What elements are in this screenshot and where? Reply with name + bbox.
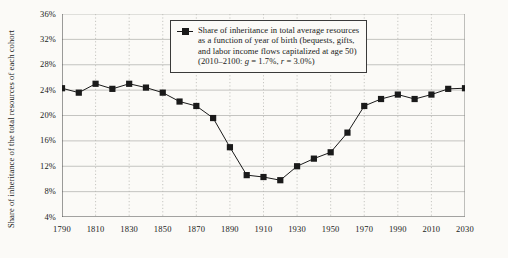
legend-line-4: (2010–2100: g = 1.7%, r = 3.0%) (198, 56, 315, 66)
y-tick-label: 4% (16, 213, 56, 222)
y-tick-label: 8% (16, 187, 56, 196)
y-tick-label: 12% (16, 162, 56, 171)
y-tick-label: 20% (16, 111, 56, 120)
y-tick-label: 16% (16, 136, 56, 145)
chart-figure: Share of inheritance of the total resour… (0, 0, 508, 258)
y-axis-title-text: Share of inheritance of the total resour… (6, 30, 16, 228)
y-tick-label: 36% (16, 10, 56, 19)
y-tick-label: 24% (16, 86, 56, 95)
legend-line-3: and labor income flows capitalized at ag… (198, 46, 357, 56)
legend-growth-suffix: = 3.0%) (284, 56, 314, 66)
chart-legend: Share of inheritance in total average re… (170, 20, 367, 73)
legend-growth-mid: = 1.7%, (249, 56, 281, 66)
legend-growth-prefix: (2010–2100: (198, 56, 245, 66)
y-tick-label: 28% (16, 60, 56, 69)
x-tick-label: 2030 (445, 225, 485, 234)
y-tick-label: 32% (16, 35, 56, 44)
legend-line-2: as a function of year of birth (bequests… (198, 35, 355, 45)
legend-line-1: Share of inheritance in total average re… (198, 25, 359, 35)
legend-text: Share of inheritance in total average re… (198, 25, 359, 67)
legend-marker-icon (177, 26, 193, 38)
data-line (62, 84, 465, 180)
